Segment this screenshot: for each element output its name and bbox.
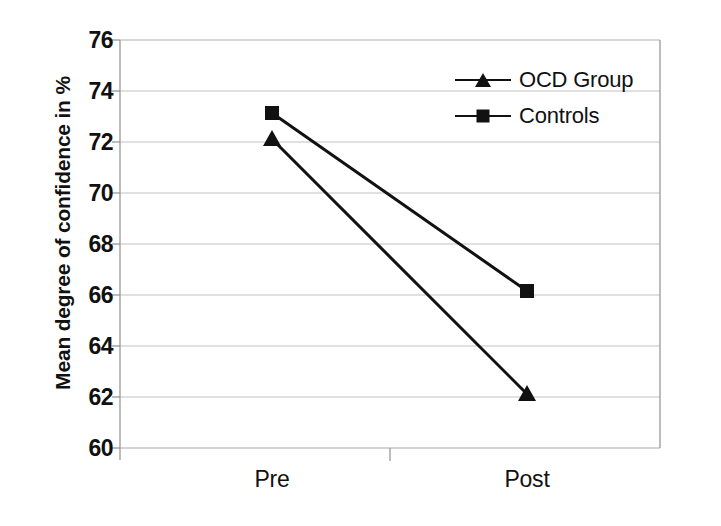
legend-sample-controls (455, 104, 511, 128)
y-tick-label: 76 (57, 27, 113, 54)
series-ocd-group (263, 130, 536, 401)
y-tick-label: 72 (57, 129, 113, 156)
y-tick-label: 60 (57, 435, 113, 462)
line-chart-figure: Mean degree of confidence in % 76 74 72 … (0, 0, 721, 526)
x-tick-label-post: Post (504, 466, 549, 493)
y-axis-ticks (112, 40, 120, 448)
legend-sample-ocd-group (455, 68, 511, 92)
series-controls (265, 106, 534, 298)
y-tick-label: 70 (57, 180, 113, 207)
y-axis-tick-labels: 76 74 72 70 68 66 64 62 60 (55, 0, 113, 526)
y-tick-label: 74 (57, 78, 113, 105)
y-tick-label: 64 (57, 333, 113, 360)
y-tick-label: 62 (57, 384, 113, 411)
legend-label-ocd-group: OCD Group (511, 67, 633, 93)
legend-label-controls: Controls (511, 103, 599, 129)
legend-item-controls[interactable]: Controls (455, 98, 675, 134)
triangle-marker-icon (475, 73, 491, 87)
x-tick-label-pre: Pre (254, 466, 289, 493)
y-tick-label: 66 (57, 282, 113, 309)
legend-item-ocd-group[interactable]: OCD Group (455, 62, 675, 98)
chart-legend: OCD Group Controls (455, 62, 675, 134)
square-marker-icon (477, 110, 490, 123)
y-tick-label: 68 (57, 231, 113, 258)
